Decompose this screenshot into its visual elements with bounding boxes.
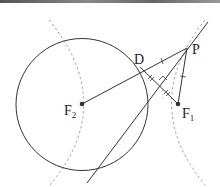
label-f2: F2 — [64, 103, 76, 120]
point-f1 — [176, 102, 181, 107]
label-f2-main: F — [64, 103, 72, 118]
label-f1-main: F — [182, 106, 190, 121]
tangent-line — [87, 22, 208, 183]
label-f2-sub: 2 — [72, 110, 77, 120]
hyperbola-diagram: P D F2 F1 — [0, 0, 220, 187]
label-d: D — [134, 52, 144, 67]
label-f1: F1 — [182, 106, 194, 123]
label-f1-sub: 1 — [190, 113, 195, 123]
tick-pf1 — [180, 76, 186, 77]
label-p: P — [192, 42, 200, 57]
point-f2 — [80, 102, 85, 107]
